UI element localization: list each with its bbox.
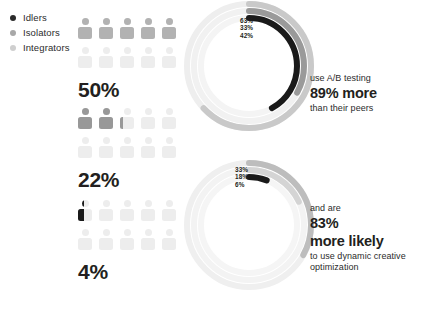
person-icon xyxy=(141,18,155,39)
person-icon xyxy=(120,229,134,250)
person-icon xyxy=(162,229,176,250)
donut-ring-labels: 63% 33% 42% xyxy=(240,17,253,39)
legend-item-label: Integrators xyxy=(23,43,70,53)
donut-ring-label: 33% xyxy=(235,166,248,173)
pictogram-group-idlers: 50% xyxy=(78,18,190,102)
donut-ring-label: 18% xyxy=(235,173,248,180)
donut-ring-track xyxy=(201,177,297,273)
person-icon xyxy=(99,108,113,129)
donut-chart-ab-testing: 63% 33% 42% xyxy=(183,0,315,146)
person-icon xyxy=(78,18,92,39)
donut-chart-dynamic-creative: 33% 18% 6% xyxy=(183,155,315,295)
callout-line-1: use A/B testing xyxy=(310,73,418,84)
donut-ring-label: 6% xyxy=(235,181,248,188)
donut-ring-label: 63% xyxy=(240,17,253,24)
person-icon xyxy=(162,47,176,68)
pictogram-row xyxy=(78,108,190,129)
person-icon xyxy=(141,200,155,221)
person-icon xyxy=(120,137,134,158)
person-icon xyxy=(120,200,134,221)
pictogram-icon-grid xyxy=(78,18,190,76)
pictogram-icon-grid xyxy=(78,108,190,166)
legend-dot-icon xyxy=(10,45,16,51)
pictogram-row xyxy=(78,18,190,39)
person-icon xyxy=(141,47,155,68)
legend-dot-icon xyxy=(10,15,16,21)
callout-headline-text: more likely xyxy=(310,233,418,250)
donut-ring-label: 33% xyxy=(240,24,253,31)
person-icon xyxy=(141,137,155,158)
legend-dot-icon xyxy=(10,30,16,36)
pictogram-percent-label: 22% xyxy=(78,168,190,192)
pictogram-row xyxy=(78,229,190,250)
person-icon xyxy=(162,200,176,221)
pictogram-icon-grid xyxy=(78,200,190,258)
person-icon xyxy=(78,200,92,221)
donut-ring-labels: 33% 18% 6% xyxy=(235,166,248,188)
pictogram-row xyxy=(78,137,190,158)
person-icon xyxy=(120,47,134,68)
pictogram-group-integrators: 4% xyxy=(78,200,190,284)
callout-headline-percent: 83% xyxy=(310,215,418,232)
person-icon xyxy=(162,137,176,158)
callout-line-3: than their peers xyxy=(310,103,418,114)
person-icon xyxy=(162,108,176,129)
pictogram-group-isolators: 22% xyxy=(78,108,190,192)
person-icon xyxy=(99,47,113,68)
person-icon xyxy=(78,137,92,158)
donut-svg xyxy=(183,155,315,295)
person-icon xyxy=(78,108,92,129)
person-icon xyxy=(99,200,113,221)
person-icon xyxy=(78,47,92,68)
callout-line-4: to use dynamic creative optimization xyxy=(310,251,418,273)
infographic-canvas: Idlers Isolators Integrators 50% 22% 4% … xyxy=(0,0,421,309)
person-icon xyxy=(162,18,176,39)
callout-headline: 89% more xyxy=(310,85,418,102)
callout-dynamic-creative: and are 83% more likely to use dynamic c… xyxy=(310,203,418,273)
person-icon xyxy=(141,229,155,250)
legend-item-label: Idlers xyxy=(23,13,47,23)
person-icon xyxy=(99,18,113,39)
donut-ring-label: 42% xyxy=(240,32,253,39)
callout-line-1: and are xyxy=(310,203,418,214)
person-icon xyxy=(120,18,134,39)
person-icon xyxy=(99,137,113,158)
pictogram-row xyxy=(78,200,190,221)
person-icon xyxy=(120,108,134,129)
pictogram-percent-label: 50% xyxy=(78,78,190,102)
legend-item-label: Isolators xyxy=(23,28,60,38)
callout-ab-testing: use A/B testing 89% more than their peer… xyxy=(310,73,418,114)
pictogram-row xyxy=(78,47,190,68)
pictogram-percent-label: 4% xyxy=(78,260,190,284)
person-icon xyxy=(99,229,113,250)
person-icon xyxy=(78,229,92,250)
person-icon xyxy=(141,108,155,129)
